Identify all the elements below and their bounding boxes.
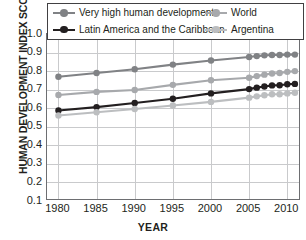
line-marker-lac-icon bbox=[53, 25, 75, 34]
data-point bbox=[276, 70, 282, 76]
data-point bbox=[269, 82, 275, 88]
y-tick-label: 0.7 bbox=[16, 83, 42, 94]
data-point bbox=[292, 81, 298, 87]
plot-area bbox=[46, 33, 300, 200]
x-tick-label: 2005 bbox=[228, 203, 268, 214]
data-point bbox=[93, 109, 99, 115]
data-point bbox=[170, 102, 176, 108]
data-point bbox=[276, 82, 282, 88]
data-point bbox=[208, 99, 214, 105]
y-tick-label: 0.5 bbox=[16, 120, 42, 131]
data-point bbox=[292, 68, 298, 74]
data-point bbox=[292, 90, 298, 96]
y-tick-label: 0.9 bbox=[16, 46, 42, 57]
data-point bbox=[132, 100, 138, 106]
y-tick-label: 1.0 bbox=[16, 28, 42, 39]
data-point bbox=[269, 70, 275, 76]
data-point bbox=[284, 69, 290, 75]
data-point bbox=[170, 96, 176, 102]
data-point bbox=[93, 89, 99, 95]
data-point bbox=[269, 91, 275, 97]
data-point bbox=[55, 112, 61, 118]
data-point bbox=[261, 71, 267, 77]
chart-container: HUMAN DEVELOPMENT INDEX SCORE 1.00.90.80… bbox=[0, 0, 306, 240]
legend-item-world[interactable]: World bbox=[205, 8, 300, 18]
series-latin-america-and-the-caribbean bbox=[55, 81, 298, 114]
y-tick-label: 0.4 bbox=[16, 139, 42, 150]
data-point bbox=[132, 66, 138, 72]
data-point bbox=[269, 52, 275, 58]
data-point bbox=[276, 91, 282, 97]
data-point bbox=[208, 90, 214, 96]
x-tick-label: 1990 bbox=[114, 203, 154, 214]
data-point bbox=[93, 70, 99, 76]
data-point bbox=[55, 73, 61, 79]
data-point bbox=[284, 90, 290, 96]
data-point bbox=[246, 54, 252, 60]
data-point bbox=[276, 52, 282, 58]
y-tick-label: 0.8 bbox=[16, 65, 42, 76]
data-point bbox=[170, 61, 176, 67]
x-axis-title: YEAR bbox=[0, 221, 306, 233]
legend-item-lac[interactable]: Latin America and the Caribbean bbox=[53, 25, 205, 35]
data-point bbox=[261, 52, 267, 58]
data-point bbox=[261, 92, 267, 98]
x-tick-label: 2010 bbox=[266, 203, 306, 214]
data-point bbox=[132, 106, 138, 112]
data-point bbox=[246, 94, 252, 100]
series-layer bbox=[47, 34, 301, 201]
x-tick-label: 1995 bbox=[152, 203, 192, 214]
data-point bbox=[254, 93, 260, 99]
legend-item-argentina[interactable]: Argentina bbox=[205, 25, 300, 35]
data-point bbox=[246, 86, 252, 92]
data-point bbox=[284, 81, 290, 87]
chart-legend: Very high human development World Latin … bbox=[47, 3, 304, 40]
data-point bbox=[254, 73, 260, 79]
y-tick-label: 0.2 bbox=[16, 176, 42, 187]
data-point bbox=[170, 82, 176, 88]
data-point bbox=[254, 53, 260, 59]
legend-item-very-high[interactable]: Very high human development bbox=[53, 8, 205, 18]
legend-label: Argentina bbox=[231, 25, 274, 35]
data-point bbox=[208, 77, 214, 83]
line-marker-world-icon bbox=[205, 9, 227, 18]
data-point bbox=[292, 51, 298, 57]
series-argentina bbox=[55, 90, 298, 119]
legend-label: World bbox=[231, 8, 257, 18]
data-point bbox=[246, 75, 252, 81]
line-marker-very-high-icon bbox=[53, 9, 75, 18]
x-tick-label: 2000 bbox=[190, 203, 230, 214]
y-tick-label: 0.6 bbox=[16, 102, 42, 113]
data-point bbox=[132, 87, 138, 93]
line-marker-argentina-icon bbox=[205, 25, 227, 34]
data-point bbox=[261, 83, 267, 89]
legend-label: Latin America and the Caribbean bbox=[79, 25, 225, 35]
data-point bbox=[254, 84, 260, 90]
legend-label: Very high human development bbox=[79, 8, 214, 18]
data-point bbox=[284, 51, 290, 57]
data-point bbox=[55, 92, 61, 98]
x-tick-label: 1980 bbox=[37, 203, 77, 214]
data-point bbox=[208, 57, 214, 63]
x-tick-label: 1985 bbox=[76, 203, 116, 214]
y-tick-label: 0.3 bbox=[16, 157, 42, 168]
